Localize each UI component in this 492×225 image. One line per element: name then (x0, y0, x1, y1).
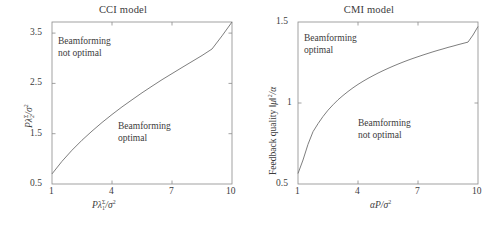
plot-area-cmi (246, 0, 492, 225)
region-label-cmi-lower-line2: not optimal (358, 130, 402, 140)
region-label-cmi-lower-line1: Beamforming (358, 118, 411, 128)
region-label-cmi-upper-line2: optimal (304, 45, 333, 55)
x-tick-label-cmi-1: 4 (355, 186, 360, 196)
x-tick-label-cmi-2: 7 (415, 186, 420, 196)
x-tick-label-cmi-3: 10 (472, 186, 482, 196)
y-axis-label-cci: PλΣ2/σ2 (24, 104, 35, 128)
y-tick-label-cci-3: 3.5 (30, 27, 42, 37)
region-label-cci-upper: Beamforming not optimal (58, 36, 111, 59)
region-label-cmi-lower: Beamforming not optimal (358, 118, 411, 141)
region-label-cmi-upper-line1: Beamforming (304, 33, 357, 43)
x-tick-label-cci-2: 7 (169, 186, 174, 196)
x-tick-label-cci-3: 10 (226, 186, 236, 196)
x-tick-label-cci-1: 4 (109, 186, 114, 196)
y-tick-label-cmi-1: 1 (287, 97, 292, 107)
x-tick-label-cci-0: 1 (49, 186, 54, 196)
y-tick-label-cci-1: 1.5 (30, 128, 42, 138)
y-tick-label-cmi-0: 0.5 (276, 178, 288, 188)
region-label-cci-lower-line2: optimal (118, 133, 147, 143)
region-label-cmi-upper: Beamforming optimal (304, 33, 357, 56)
x-axis-label-cci: PλΣ1/σ2 (92, 200, 116, 211)
y-tick-label-cci-0: 0.5 (30, 178, 42, 188)
x-axis-label-cmi: αP/σ2 (370, 200, 391, 210)
region-label-cci-upper-line1: Beamforming (58, 36, 111, 46)
y-axis-label-cmi: Feedback quality ‖μ‖2/α (268, 87, 278, 175)
region-label-cci-upper-line2: not optimal (58, 48, 102, 58)
panel-cmi-model: CMI model 1 4 7 10 0.5 1 1.5 (246, 0, 492, 225)
y-axis-label-cmi-prefix: Feedback quality (268, 110, 278, 175)
y-tick-label-cmi-2: 1.5 (276, 16, 288, 26)
panel-cci-model: CCI model (0, 0, 246, 225)
region-label-cci-lower-line1: Beamforming (118, 121, 171, 131)
y-tick-label-cci-2: 2.5 (30, 77, 42, 87)
x-tick-label-cmi-0: 1 (295, 186, 300, 196)
region-label-cci-lower: Beamforming optimal (118, 121, 171, 144)
figure-two-panel-plot: CCI model (0, 0, 492, 225)
